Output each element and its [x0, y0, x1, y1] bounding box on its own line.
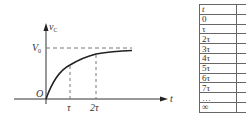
table-row: 3τ [200, 44, 247, 54]
x-axis-arrow-icon [160, 97, 168, 102]
table-row: τ [200, 24, 247, 34]
values-table: t 0 τ 2τ 3τ 4τ 5τ 6τ 7τ … ∞ [199, 4, 246, 113]
v0-label: V0 [32, 43, 41, 54]
table-row: 2τ [200, 34, 247, 44]
rc-charging-graph: vC V0 O τ 2τ t [0, 0, 190, 120]
table-row: ∞ [200, 102, 247, 112]
table-row: 4τ [200, 53, 247, 63]
table-row: 0 [200, 14, 247, 24]
table-header-row: t [200, 5, 247, 15]
y-axis-arrow-icon [44, 23, 49, 31]
header-t: t [200, 5, 237, 15]
y-axis-label: vC [49, 22, 57, 33]
table-row: 5τ [200, 63, 247, 73]
table-row: 7τ [200, 83, 247, 93]
table-row: 6τ [200, 73, 247, 83]
origin-label: O [36, 89, 43, 99]
tau-tick-label: τ [67, 103, 71, 113]
table-row: … [200, 93, 247, 103]
charging-curve [46, 51, 132, 100]
header-value [237, 5, 246, 15]
x-axis-label: t [170, 94, 173, 104]
time-constant-table: t 0 τ 2τ 3τ 4τ 5τ 6τ 7τ … ∞ [199, 4, 246, 113]
two-tau-tick-label: 2τ [90, 103, 99, 113]
